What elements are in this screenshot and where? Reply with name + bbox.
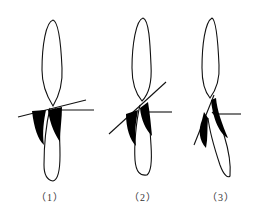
diagram-figure [0,0,258,214]
panel-1-caption: （1） [36,189,64,204]
panel-2-drawing [109,18,172,175]
panel-2-caption: （2） [129,189,157,204]
panel-3-drawing [194,18,241,177]
panel-3-caption: （3） [207,189,235,204]
panel-1-drawing [18,20,94,181]
